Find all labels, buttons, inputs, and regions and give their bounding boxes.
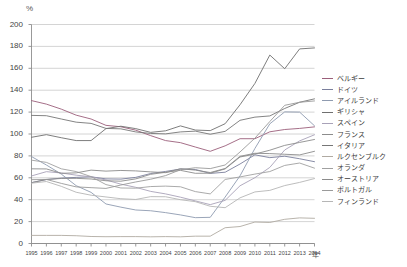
legend-item-label: オーストリア xyxy=(337,175,379,183)
legend-item[interactable]: ドイツ xyxy=(322,84,406,95)
legend-color-swatch xyxy=(322,134,333,135)
legend-item-label: スペイン xyxy=(337,119,365,127)
y-tick-label: 100 xyxy=(1,130,23,138)
legend-item-label: ルクセンブルク xyxy=(337,153,386,161)
legend-color-swatch xyxy=(322,78,333,79)
x-tick-label: 2011 xyxy=(262,250,278,256)
legend-color-swatch xyxy=(322,112,333,113)
y-tick-label: 20 xyxy=(1,218,23,226)
legend-item[interactable]: ギリシャ xyxy=(322,107,406,118)
y-tick-label: 140 xyxy=(1,86,23,94)
series-line xyxy=(32,48,315,141)
legend-item[interactable]: フランス xyxy=(322,129,406,140)
legend-color-swatch xyxy=(322,100,333,101)
legend-item[interactable]: イタリア xyxy=(322,140,406,151)
x-tick-label: 1996 xyxy=(38,250,54,256)
legend-item[interactable]: フィンランド xyxy=(322,196,406,207)
series-line xyxy=(32,179,315,208)
y-tick-label: 120 xyxy=(1,108,23,116)
series-lines xyxy=(32,48,315,237)
legend-item-label: オランダ xyxy=(337,164,365,172)
legend-item[interactable]: オーストリア xyxy=(322,174,406,185)
x-tick-label: 2009 xyxy=(232,250,248,256)
legend-item-label: イタリア xyxy=(337,142,365,150)
series-line xyxy=(32,101,315,152)
y-tick-label: 40 xyxy=(1,196,23,204)
y-tick-label: 0 xyxy=(1,240,23,248)
legend-item-label: アイルランド xyxy=(337,97,379,105)
series-line xyxy=(32,139,315,182)
legend-item[interactable]: ベルギー xyxy=(322,73,406,84)
legend-item-label: ベルギー xyxy=(337,75,365,83)
legend-color-swatch xyxy=(322,89,333,90)
x-tick-label: 2013 xyxy=(292,250,308,256)
legend-item-label: ポルトガル xyxy=(337,186,372,194)
legend-item-label: フィンランド xyxy=(337,198,379,206)
legend-item-label: ドイツ xyxy=(337,86,358,94)
legend-color-swatch xyxy=(322,156,333,157)
legend-item[interactable]: アイルランド xyxy=(322,95,406,106)
legend-item-label: ギリシャ xyxy=(337,108,365,116)
x-tick-label: 1997 xyxy=(53,250,69,256)
legend-item[interactable]: ルクセンブルク xyxy=(322,151,406,162)
x-tick-label: 2000 xyxy=(98,250,114,256)
legend-color-swatch xyxy=(322,145,333,146)
legend-color-swatch xyxy=(322,190,333,191)
x-tick-label: 2006 xyxy=(187,250,203,256)
y-tick-label: 180 xyxy=(1,42,23,50)
y-tick-label: 200 xyxy=(1,21,23,29)
x-tick-label: 2010 xyxy=(247,250,263,256)
legend-color-swatch xyxy=(322,123,333,124)
legend-color-swatch xyxy=(322,201,333,202)
x-tick-label: 1999 xyxy=(83,250,99,256)
x-tick-label: 2007 xyxy=(202,250,218,256)
x-tick-label: 2014 xyxy=(307,250,323,256)
legend-item-label: フランス xyxy=(337,131,365,139)
x-tick-label: 2005 xyxy=(172,250,188,256)
y-tick-label: 160 xyxy=(1,64,23,72)
series-line xyxy=(32,218,315,237)
x-tick-label: 2012 xyxy=(277,250,293,256)
x-tick-label: 2008 xyxy=(217,250,233,256)
x-tick-label: 2001 xyxy=(113,250,129,256)
series-line xyxy=(32,135,315,205)
legend-color-swatch xyxy=(322,168,333,169)
line-chart: % 年 020406080100120140160180200 19951996… xyxy=(0,0,407,267)
legend-item[interactable]: ポルトガル xyxy=(322,185,406,196)
series-line xyxy=(32,99,315,134)
x-tick-label: 1995 xyxy=(24,250,40,256)
y-tick-label: 80 xyxy=(1,152,23,160)
x-tick-label: 2002 xyxy=(128,250,144,256)
y-tick-label: 60 xyxy=(1,174,23,182)
legend: ベルギードイツアイルランドギリシャスペインフランスイタリアルクセンブルクオランダ… xyxy=(322,73,406,207)
x-tick-label: 2003 xyxy=(143,250,159,256)
legend-color-swatch xyxy=(322,179,333,180)
x-tick-label: 1998 xyxy=(68,250,84,256)
x-tick-label: 2004 xyxy=(158,250,174,256)
legend-item[interactable]: オランダ xyxy=(322,163,406,174)
legend-item[interactable]: スペイン xyxy=(322,118,406,129)
